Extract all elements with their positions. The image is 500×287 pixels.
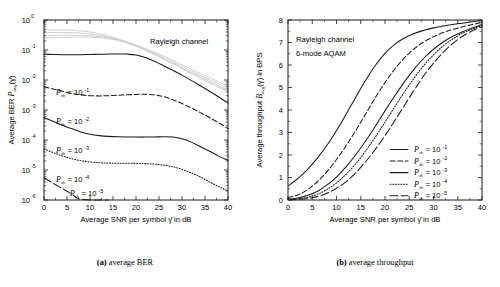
x-ticklabel-b: 25 — [405, 203, 413, 212]
x-ticklabel-b: 30 — [429, 203, 437, 212]
y-ticklabel-b: 3 — [279, 128, 283, 137]
legend-label-eq: = 10 — [426, 145, 441, 154]
y-title-part2: (γ̄) in BPS — [255, 53, 264, 87]
legend-item-0: Pth= 10-1 — [413, 144, 447, 155]
series-label-sub: th — [61, 93, 65, 98]
y-ticklabel-b: 1 — [279, 173, 283, 182]
legend-item-1: Pth= 10-2 — [413, 155, 447, 166]
series-label-sub: th — [61, 122, 65, 127]
x-axis-title-a: Average SNR per symbol γ̄ in dB — [81, 215, 192, 224]
x-ticklabel-a: 35 — [201, 203, 209, 212]
y-ticklabel-a: 10 — [22, 166, 30, 175]
x-ticklabel-b: 5 — [310, 203, 314, 212]
legend-label-eq: = 10 — [426, 191, 441, 200]
legend-label-sub: th — [419, 196, 423, 201]
series-label-exp: -3 — [85, 145, 90, 151]
plot-frame-a — [44, 20, 228, 200]
series-label-sub: th — [61, 180, 65, 185]
y-ticklabel-exp-a: -6 — [31, 193, 36, 199]
y-ticklabel-b: 4 — [279, 106, 283, 115]
y-axis-title-text-a: Average BER Pavg(γ̄) — [7, 75, 17, 144]
y-ticklabel-a: 10 — [22, 76, 30, 85]
legend-label-base: P — [413, 180, 419, 189]
curve-a-series-3 — [44, 149, 228, 191]
legend-label-sub: th — [419, 162, 423, 167]
y-ticklabel-exp-a: -4 — [31, 133, 36, 139]
legend-label-sub: th — [419, 150, 423, 155]
legend-label-base: P — [413, 168, 419, 177]
panel-average-throughput: 0510152025303540012345678Rayleigh channe… — [250, 0, 500, 287]
figure-container: 051015202530354010010-110-210-310-410-51… — [0, 0, 500, 287]
series-label-base: P — [55, 146, 61, 155]
series-label-exp: -4 — [85, 174, 90, 180]
y-ticklabel-exp-a: 0 — [31, 13, 34, 19]
series-label-a-1: Pth= 10-2 — [55, 116, 89, 127]
annotation-aqam-b: 6-mode AQAM — [296, 49, 346, 58]
y-ticklabel-exp-a: -2 — [31, 73, 36, 79]
legend-label-exp: -2 — [443, 155, 448, 161]
y-ticklabel-exp-a: -1 — [31, 43, 36, 49]
series-label-a-3: Pth= 10-4 — [55, 174, 89, 185]
x-ticklabel-b: 10 — [332, 203, 340, 212]
series-label-exp: -1 — [85, 87, 90, 93]
caption-a-tag: (a) — [97, 258, 107, 267]
x-ticklabel-a: 15 — [109, 203, 117, 212]
y-ticklabel-b: 0 — [279, 196, 283, 205]
legend-label-base: P — [413, 191, 419, 200]
legend-label-exp: -3 — [443, 167, 448, 173]
series-label-eq: = 10 — [68, 88, 83, 97]
panel-average-ber: 051015202530354010010-110-210-310-410-51… — [0, 0, 250, 287]
x-ticklabel-a: 0 — [42, 203, 46, 212]
x-ticklabel-b: 20 — [381, 203, 389, 212]
series-label-eq: = 10 — [82, 189, 97, 198]
x-ticklabel-a: 5 — [65, 203, 69, 212]
caption-b-tag: (b) — [336, 258, 346, 267]
series-label-sub: th — [75, 194, 79, 199]
y-axis-title-text-b: Average throughput Bavg(γ̄) in BPS — [255, 53, 265, 168]
y-ticklabel-a: 10 — [22, 196, 30, 205]
y-ticklabel-b: 5 — [279, 83, 283, 92]
x-ticklabel-a: 20 — [132, 203, 140, 212]
caption-panel-b: (b) average throughput — [250, 258, 500, 267]
legend-label-base: P — [413, 157, 419, 166]
series-label-eq: = 10 — [68, 175, 83, 184]
series-label-base: P — [55, 117, 61, 126]
y-ticklabel-b: 6 — [279, 61, 283, 70]
y-ticklabel-a: 10 — [22, 16, 30, 25]
x-ticklabel-a: 40 — [224, 203, 232, 212]
caption-a-text: average BER — [107, 258, 154, 267]
x-ticklabel-b: 35 — [454, 203, 462, 212]
x-ticklabel-b: 0 — [286, 203, 290, 212]
legend-label-sub: th — [419, 173, 423, 178]
y-ticklabel-exp-a: -3 — [31, 103, 36, 109]
series-label-base: P — [69, 189, 75, 198]
caption-panel-a: (a) average BER — [0, 258, 250, 267]
x-axis-title-b: Average SNR per symbol γ̄ in dB — [330, 215, 441, 224]
legend-label-eq: = 10 — [426, 180, 441, 189]
y-title-part1: Average BER — [7, 97, 16, 145]
series-label-a-0: Pth= 10-1 — [55, 87, 89, 98]
curve-b-series-0 — [288, 21, 482, 186]
y-ticklabel-b: 7 — [279, 38, 283, 47]
x-ticklabel-a: 30 — [178, 203, 186, 212]
y-ticklabel-a: 10 — [22, 136, 30, 145]
legend-label-sub: th — [419, 185, 423, 190]
y-ticklabel-exp-a: -5 — [31, 163, 36, 169]
legend-label-base: P — [413, 145, 419, 154]
y-ticklabel-a: 10 — [22, 106, 30, 115]
y-axis-title-a: Average BER Pavg(γ̄) — [7, 75, 17, 144]
x-ticklabel-a: 25 — [155, 203, 163, 212]
x-ticklabel-a: 10 — [86, 203, 94, 212]
annotation-rayleigh-b: Rayleigh channel — [296, 35, 355, 44]
series-label-sub: th — [61, 151, 65, 156]
legend-label-exp: -1 — [443, 144, 448, 150]
y-title-part2: (γ̄) — [7, 75, 16, 84]
x-ticklabel-b: 15 — [357, 203, 365, 212]
series-label-a-4: Pth= 10-5 — [69, 188, 103, 199]
x-ticklabel-b: 40 — [478, 203, 486, 212]
caption-b-text: average throughput — [347, 258, 414, 267]
y-ticklabel-b: 8 — [279, 16, 283, 25]
series-label-base: P — [55, 175, 61, 184]
series-label-exp: -2 — [85, 116, 90, 122]
legend-label-exp: -4 — [443, 178, 448, 184]
